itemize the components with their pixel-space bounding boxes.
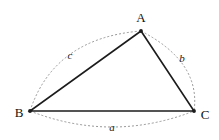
- triangle-figure: A B C a b c: [0, 0, 219, 140]
- vertex-dot-a: [139, 29, 143, 33]
- vertex-dot-c: [192, 109, 196, 113]
- vertex-dot-b: [28, 109, 32, 113]
- side-label-a: a: [109, 121, 115, 133]
- vertex-label-c: C: [201, 107, 210, 122]
- triangle-diagram-canvas: A B C a b c: [0, 0, 219, 140]
- side-label-c: c: [68, 49, 73, 61]
- triangle-outline: [30, 31, 194, 111]
- side-label-b: b: [179, 52, 185, 64]
- vertex-label-b: B: [15, 105, 24, 120]
- vertex-label-a: A: [136, 10, 146, 25]
